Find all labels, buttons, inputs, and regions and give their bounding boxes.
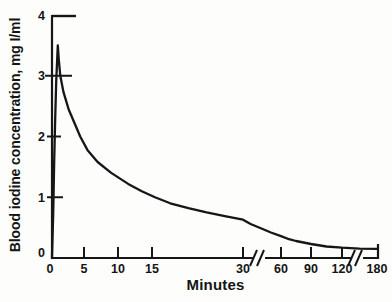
x-tick-label-30: 30	[236, 262, 250, 276]
x-tick-label-90: 90	[304, 262, 318, 276]
line-chart-figure: 01234051015306090120180 Minutes Blood io…	[0, 0, 392, 302]
x-tick-label-60: 60	[274, 262, 288, 276]
y-axis-title: Blood iodine concentration, mg I/ml	[7, 18, 23, 253]
y-tick-label-4: 4	[38, 9, 45, 23]
y-tick-label-0: 0	[38, 246, 45, 260]
concentration-curve	[52, 45, 377, 258]
x-tick-label-10: 10	[111, 262, 125, 276]
x-tick-label-15: 15	[145, 262, 159, 276]
y-tick-label-1: 1	[38, 191, 45, 205]
x-tick-label-5: 5	[81, 262, 88, 276]
y-tick-label-3: 3	[38, 69, 45, 83]
x-tick-label-0: 0	[47, 262, 54, 276]
x-axis-title: Minutes	[52, 276, 379, 293]
y-tick-label-2: 2	[38, 130, 45, 144]
x-tick-label-180: 180	[367, 262, 388, 276]
chart-canvas: 01234051015306090120180	[0, 0, 392, 302]
